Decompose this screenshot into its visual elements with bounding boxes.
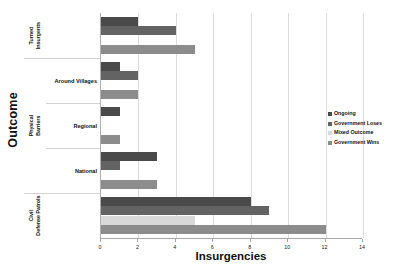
y-axis-group-label: CivilDefense Patrols [24,193,46,238]
bar [101,180,157,189]
y-axis-category-label: Around Villages [45,78,97,84]
y-axis-title: Outcome [2,0,24,240]
bar [101,135,120,144]
bar [101,45,195,54]
legend-swatch-icon [328,112,332,116]
y-axis-category-label: National [45,168,97,174]
bar [101,62,120,71]
x-axis-tick [325,239,326,242]
gridline [326,13,327,238]
chart-legend: OngoingGovernment LosesMixed OutcomeGove… [328,110,394,148]
category-separator [46,103,100,104]
legend-swatch-icon [328,122,332,126]
category-separator [24,193,100,194]
x-axis-tick [175,239,176,242]
x-axis-tick [287,239,288,242]
bar [101,107,120,116]
gridline [288,13,289,238]
bar [101,71,138,80]
x-axis-tick [362,239,363,242]
y-axis-category-labels: Around VillagesRegionalNational [46,13,100,238]
legend-item[interactable]: Government Wins [328,139,394,147]
legend-swatch-icon [328,141,332,145]
category-separator [24,58,100,59]
x-axis-title: Insurgencies [100,250,362,262]
legend-item[interactable]: Mixed Outcome [328,129,394,137]
bar [101,17,138,26]
bar [101,161,120,170]
y-axis-group-label-text: CivilDefense Patrols [28,195,41,235]
x-axis-tick [250,239,251,242]
y-axis-title-label: Outcome [6,92,20,148]
category-separator [46,148,100,149]
legend-item-label: Mixed Outcome [334,130,373,135]
legend-item[interactable]: Government Loses [328,120,394,128]
y-axis-group-label: TurnedInsurgents [24,13,46,58]
bar [101,216,195,225]
plot-area [100,13,363,238]
y-axis-group-labels: TurnedInsurgentsPhysicalBarriersCivilDef… [24,13,46,238]
legend-item-label: Ongoing [334,111,356,116]
x-axis-tick [212,239,213,242]
bar [101,206,269,215]
gridline [251,13,252,238]
x-axis-title-label: Insurgencies [196,250,267,262]
y-axis-group-label-text: TurnedInsurgents [28,22,41,49]
x-axis-tick [137,239,138,242]
bar [101,225,326,234]
bar [101,90,138,99]
legend-item[interactable]: Ongoing [328,110,394,118]
bar [101,26,176,35]
bar [101,197,251,206]
bar-chart: Outcome TurnedInsurgentsPhysicalBarriers… [0,0,395,273]
legend-item-label: Government Loses [334,121,382,126]
y-axis-group-label: PhysicalBarriers [24,58,46,193]
bar [101,152,157,161]
y-axis-category-label: Regional [45,123,97,129]
x-axis: 02468101214 [100,238,362,239]
x-axis-tick [100,239,101,242]
y-axis-group-label-text: PhysicalBarriers [28,115,41,137]
legend-item-label: Government Wins [334,140,379,145]
legend-swatch-icon [328,131,332,135]
